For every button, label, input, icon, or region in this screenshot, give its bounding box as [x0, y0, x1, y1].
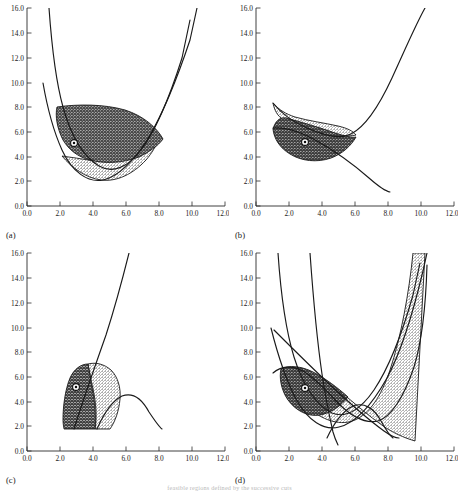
y-tick-label: 14.0 — [240, 274, 253, 283]
y-tick-label: 4.0 — [244, 398, 254, 407]
x-tick-label: 8.0 — [383, 209, 393, 218]
x-axis-b: 0.0 2.0 4.0 6.0 8.0 10.0 12.0 — [251, 202, 458, 219]
x-tick-label: 2.0 — [284, 454, 294, 463]
x-tick-label: 6.0 — [121, 209, 131, 218]
x-tick-label: 8.0 — [154, 209, 164, 218]
figure-bottom-text-fragment: feasible regions defined by the successi… — [0, 484, 459, 491]
x-tick-label: 12.0 — [217, 454, 229, 463]
panel-caption-a: (a) — [6, 230, 16, 240]
x-tick-label: 0.0 — [22, 209, 32, 218]
y-tick-label: 14.0 — [11, 29, 24, 38]
x-tick-label: 6.0 — [350, 209, 360, 218]
x-tick-label: 2.0 — [55, 454, 65, 463]
x-tick-label: 12.0 — [446, 454, 458, 463]
x-tick-label: 12.0 — [446, 209, 458, 218]
x-tick-label: 4.0 — [88, 209, 98, 218]
y-tick-label: 6.0 — [244, 373, 254, 382]
marker-point-a — [71, 140, 78, 147]
x-tick-label: 4.0 — [317, 454, 327, 463]
y-tick-label: 2.0 — [15, 177, 25, 186]
y-tick-label: 8.0 — [244, 103, 254, 112]
x-tick-label: 10.0 — [186, 454, 199, 463]
x-tick-label: 8.0 — [383, 454, 393, 463]
x-tick-label: 0.0 — [251, 454, 261, 463]
plot-area-c — [63, 253, 162, 429]
x-tick-label: 2.0 — [284, 209, 294, 218]
marker-point-c — [73, 384, 80, 391]
y-tick-label: 2.0 — [15, 422, 25, 431]
plot-area-a — [43, 8, 197, 180]
y-tick-label: 8.0 — [15, 103, 25, 112]
y-tick-label: 6.0 — [244, 128, 254, 137]
panel-c: 0.0 2.0 4.0 6.0 8.0 10.0 12.0 14.0 16.0 … — [0, 245, 229, 490]
y-tick-label: 8.0 — [244, 348, 254, 357]
x-tick-label: 10.0 — [186, 209, 199, 218]
y-tick-label: 12.0 — [11, 54, 24, 63]
y-tick-label: 2.0 — [244, 177, 254, 186]
x-axis-d: 0.0 2.0 4.0 6.0 8.0 10.0 12.0 — [251, 447, 458, 464]
x-tick-label: 12.0 — [217, 209, 229, 218]
y-axis-a: 0.0 2.0 4.0 6.0 8.0 10.0 12.0 14.0 16.0 — [11, 4, 31, 211]
y-tick-label: 12.0 — [240, 54, 253, 63]
y-tick-label: 12.0 — [11, 299, 24, 308]
y-tick-label: 10.0 — [11, 79, 24, 88]
y-tick-label: 10.0 — [240, 324, 253, 333]
x-tick-label: 6.0 — [121, 454, 131, 463]
y-tick-label: 16.0 — [240, 4, 253, 13]
x-tick-label: 4.0 — [317, 209, 327, 218]
x-tick-label: 8.0 — [154, 454, 164, 463]
y-tick-label: 16.0 — [11, 249, 24, 258]
y-tick-label: 4.0 — [244, 153, 254, 162]
y-axis-d: 0.0 2.0 4.0 6.0 8.0 10.0 12.0 14.0 16.0 — [240, 249, 260, 456]
x-tick-label: 10.0 — [415, 454, 428, 463]
x-tick-label: 10.0 — [415, 209, 428, 218]
y-axis-b: 0.0 2.0 4.0 6.0 8.0 10.0 12.0 14.0 16.0 — [240, 4, 260, 211]
y-tick-label: 8.0 — [15, 348, 25, 357]
x-tick-label: 4.0 — [88, 454, 98, 463]
panel-d: 0.0 2.0 4.0 6.0 8.0 10.0 12.0 14.0 16.0 … — [229, 245, 458, 490]
figure-four-panel-plot: 0.0 2.0 4.0 6.0 8.0 10.0 12.0 14.0 16.0 — [0, 0, 459, 491]
y-tick-label: 4.0 — [15, 153, 25, 162]
panel-caption-b: (b) — [235, 230, 245, 240]
y-tick-label: 6.0 — [15, 373, 25, 382]
y-tick-label: 16.0 — [11, 4, 24, 13]
y-tick-label: 14.0 — [240, 29, 253, 38]
plot-area-d — [271, 253, 427, 445]
y-tick-label: 16.0 — [240, 249, 253, 258]
x-tick-label: 2.0 — [55, 209, 65, 218]
x-tick-label: 0.0 — [22, 454, 32, 463]
y-tick-label: 2.0 — [244, 422, 254, 431]
y-tick-label: 6.0 — [15, 128, 25, 137]
marker-point-d — [302, 385, 309, 392]
plot-area-b — [273, 8, 425, 192]
y-tick-label: 10.0 — [11, 324, 24, 333]
y-tick-label: 10.0 — [240, 79, 253, 88]
x-axis-c: 0.0 2.0 4.0 6.0 8.0 10.0 12.0 — [22, 447, 229, 464]
marker-point-b — [302, 139, 309, 146]
y-tick-label: 12.0 — [240, 299, 253, 308]
y-axis-c: 0.0 2.0 4.0 6.0 8.0 10.0 12.0 14.0 16.0 — [11, 249, 31, 456]
x-tick-label: 6.0 — [350, 454, 360, 463]
x-tick-label: 0.0 — [251, 209, 261, 218]
x-axis-a: 0.0 2.0 4.0 6.0 8.0 10.0 12.0 — [22, 202, 229, 219]
y-tick-label: 14.0 — [11, 274, 24, 283]
panel-b: 0.0 2.0 4.0 6.0 8.0 10.0 12.0 14.0 16.0 … — [229, 0, 458, 245]
y-tick-label: 4.0 — [15, 398, 25, 407]
panel-a: 0.0 2.0 4.0 6.0 8.0 10.0 12.0 14.0 16.0 — [0, 0, 229, 245]
